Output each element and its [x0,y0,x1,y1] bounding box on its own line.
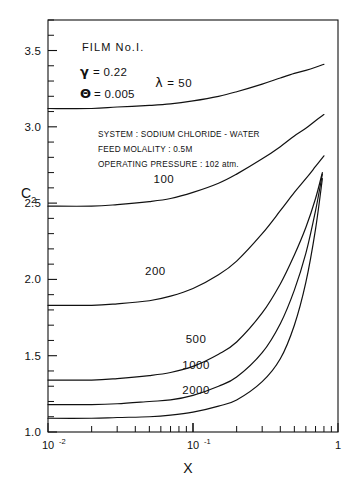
note-system: SYSTEM : SODIUM CHLORIDE - WATER [98,130,260,139]
curve-label-lambda-1000: 1000 [182,359,210,371]
x-tick-label: 10 [187,439,199,451]
y-axis-major-ticks [48,51,57,432]
x-tick-exponent: -2 [59,437,66,446]
x-axis-title: X [183,460,193,476]
y-axis-title-subscript: 2 [31,194,36,205]
note-feed-molality: FEED MOLALITY : 0.5M [98,145,192,154]
y-axis-tick-labels: 1.01.52.02.53.03.5 [24,45,41,438]
note-operating-pressure: OPERATING PRESSURE : 102 atm. [98,160,239,169]
x-axis-tick-labels: 10-210-11 [42,437,341,451]
chart-svg: 1.01.52.02.53.03.5 10-210-11 λ= 50100200… [0,0,356,482]
y-axis-title: C [21,185,31,201]
y-tick-label: 3.0 [24,121,41,133]
curve-label-lambda-50: = 50 [167,77,192,89]
theta-value: = 0.005 [94,88,135,100]
x-tick-label: 1 [335,439,341,451]
x-axis-ticks [48,423,338,432]
curve-label-lambda-100: 100 [154,173,175,185]
curve-lambda-200 [48,156,324,306]
curve-labels: λ= 5010020050010002000 [145,75,210,396]
y-axis-minor-ticks [48,20,54,417]
y-tick-label: 1.5 [24,350,41,362]
curve-label-lambda-500: 500 [186,333,207,345]
theta-symbol: Θ [80,86,91,101]
x-tick-exponent: -1 [204,437,211,446]
y-tick-label: 3.5 [24,45,41,57]
film-label: FILM No.I. [82,41,144,53]
curve-label-lambda-200: 200 [145,265,166,277]
curve-lambda-500 [48,173,322,381]
y-tick-label: 2.0 [24,273,41,285]
chart-figure: 1.01.52.02.53.03.5 10-210-11 λ= 50100200… [0,0,356,482]
curve-lambda-2000 [48,179,322,419]
x-tick-label: 10 [42,439,54,451]
gamma-value: = 0.22 [93,66,127,78]
lambda-symbol: λ [155,75,163,90]
gamma-symbol: γ [80,64,89,79]
curve-label-lambda-2000: 2000 [182,384,210,396]
y-tick-label: 1.0 [24,426,41,438]
